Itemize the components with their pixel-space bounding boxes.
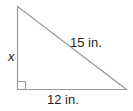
hypotenuse-label: 15 in. [70,36,102,49]
horizontal-leg-label: 12 in. [47,93,79,106]
vertical-leg-label: x [8,50,15,63]
right-triangle-diagram: x 15 in. 12 in. [0,0,133,111]
right-angle-marker [18,82,26,90]
